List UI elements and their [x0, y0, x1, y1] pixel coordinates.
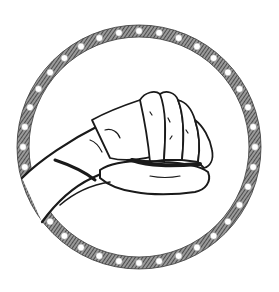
illustration-canvas: Black-and-white engraving-style illustra… — [0, 0, 279, 292]
chain-bead — [250, 164, 257, 171]
chain-bead — [250, 124, 257, 131]
chain-bead — [236, 202, 243, 209]
chain-bead — [156, 258, 163, 265]
chain-bead — [156, 29, 163, 36]
chain-bead — [96, 35, 103, 42]
chain-bead — [175, 35, 182, 42]
chain-bead — [175, 253, 182, 260]
chain-bead — [116, 29, 123, 36]
chain-bead — [47, 218, 54, 225]
chain-bead — [210, 233, 217, 240]
chain-bead — [252, 144, 259, 151]
fist-drawing — [22, 92, 213, 222]
chain-bead — [35, 86, 42, 93]
chain-bead — [78, 43, 85, 50]
chain-bead — [61, 233, 68, 240]
chain-bead — [61, 55, 68, 62]
chain-bead — [27, 104, 34, 111]
chain-bead — [21, 164, 28, 171]
chain-bead — [245, 183, 252, 190]
chain-bead — [78, 244, 85, 251]
chain-bead — [20, 144, 27, 151]
chain-bead — [194, 244, 201, 251]
chain-bead — [245, 104, 252, 111]
chain-bead — [21, 124, 28, 131]
chain-bead — [225, 69, 232, 76]
chain-bead — [47, 69, 54, 76]
chain-bead — [236, 86, 243, 93]
chain-bead — [194, 43, 201, 50]
fist-emblem — [0, 0, 279, 292]
chain-bead — [225, 218, 232, 225]
chain-bead — [210, 55, 217, 62]
chain-bead — [136, 260, 143, 267]
chain-bead — [116, 258, 123, 265]
chain-bead — [136, 28, 143, 35]
chain-bead — [96, 253, 103, 260]
